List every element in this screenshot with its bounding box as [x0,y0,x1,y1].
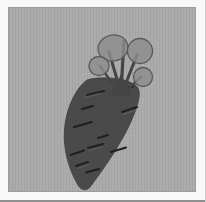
carrot-illustration [0,0,206,202]
carrot-leaf-right-small [134,68,153,87]
frame-bottom-shadow-line [0,200,206,202]
framed-picture [0,0,206,202]
carrot-leaf-top-right [128,39,153,64]
carrot-leaf-left-small [89,57,109,76]
